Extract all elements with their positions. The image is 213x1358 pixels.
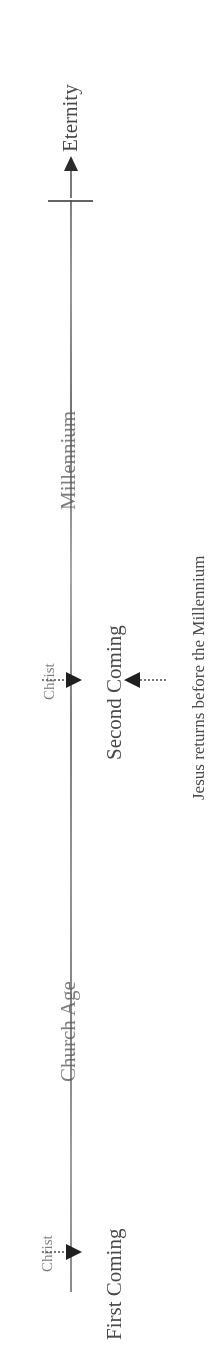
label-christ-second-coming: Christ bbox=[42, 663, 57, 700]
annotation-premillennial-note: Jesus returns before the Millennium bbox=[190, 555, 207, 800]
label-christ-first-coming: Christ bbox=[40, 1235, 55, 1272]
eternity-arrow-shaft bbox=[70, 170, 72, 198]
premillennial-note-arrow-shaft bbox=[140, 679, 166, 681]
second-coming-arrow-head-icon bbox=[66, 672, 82, 688]
label-second-coming: Second Coming bbox=[104, 625, 125, 760]
label-eternity: Eternity bbox=[60, 84, 81, 152]
timeline-end-tick bbox=[48, 200, 93, 202]
timeline-axis bbox=[70, 200, 72, 1292]
label-millennium: Millennium bbox=[58, 411, 79, 510]
prophecy-timeline-diagram: Eternity Millennium Christ Second Coming… bbox=[0, 0, 213, 1358]
first-coming-arrow-head-icon bbox=[66, 1244, 82, 1260]
eternity-arrow-head-icon bbox=[64, 156, 78, 171]
label-first-coming: First Coming bbox=[104, 1229, 125, 1340]
premillennial-note-arrow-head-icon bbox=[124, 672, 140, 688]
label-church-age: Church Age bbox=[58, 981, 79, 1082]
